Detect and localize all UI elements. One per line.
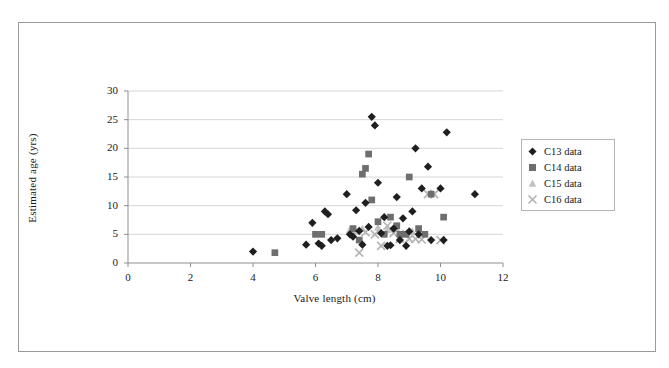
marker-diamond [399,214,407,222]
y-tick-label: 25 [92,113,118,125]
marker-diamond [374,179,382,187]
x-tick-label: 12 [490,271,516,283]
marker-diamond [343,190,351,198]
legend-label: C14 data [544,162,582,173]
marker-diamond [308,219,316,227]
marker-diamond [352,206,360,214]
y-axis-title: Estimated age (yrs) [26,108,38,248]
y-tick-label: 5 [92,227,118,239]
marker-diamond [408,207,416,215]
legend-marker-diamond-icon [527,146,538,157]
marker-diamond [424,163,432,171]
legend-item-c16-data[interactable]: C16 data [527,191,614,207]
marker-square [406,174,413,181]
marker-square [362,165,369,172]
legend-marker-triangle-icon [527,178,538,189]
marker-diamond [393,193,401,201]
marker-square [365,151,372,158]
marker-diamond [365,223,373,231]
marker-diamond [427,236,435,244]
scatter-chart: 051015202530 024681012 Valve length (cm)… [0,0,669,368]
marker-diamond [380,213,388,221]
x-tick-label: 6 [303,271,329,283]
marker-triangle [529,179,537,186]
marker-cross [529,195,537,203]
gridlines [128,91,503,234]
y-tick-label: 15 [92,170,118,182]
y-tick-label: 30 [92,84,118,96]
y-tick-label: 20 [92,141,118,153]
marker-square [440,214,447,221]
marker-cross [355,249,363,257]
x-tick-label: 10 [428,271,454,283]
marker-square [359,171,366,178]
marker-diamond [249,247,257,255]
marker-diamond [302,241,310,249]
marker-diamond [411,144,419,152]
marker-diamond [471,190,479,198]
legend-label: C16 data [544,194,582,205]
x-tick-label: 0 [115,271,141,283]
marker-square [428,191,435,198]
marker-diamond [529,147,537,155]
legend-marker-cross-icon [527,194,538,205]
legend-label: C13 data [544,146,582,157]
marker-square [529,163,536,170]
marker-diamond [333,234,341,242]
x-axis-title: Valve length (cm) [0,292,669,304]
legend-item-c14-data[interactable]: C14 data [527,159,614,175]
legend-item-c15-data[interactable]: C15 data [527,175,614,191]
marker-diamond [327,236,335,244]
marker-square [312,231,319,238]
marker-diamond [371,121,379,129]
x-tick-label: 8 [365,271,391,283]
legend-marker-square-icon [527,162,538,173]
y-tick-label: 0 [92,256,118,268]
x-tick-label: 2 [178,271,204,283]
marker-square [318,231,325,238]
data-points-layer [249,113,479,257]
marker-square [375,218,382,225]
marker-square [368,197,375,204]
chart-legend: C13 dataC14 dataC15 dataC16 data [521,139,615,211]
y-tick-label: 10 [92,199,118,211]
legend-label: C15 data [544,178,582,189]
marker-square [272,249,279,256]
marker-diamond [440,236,448,244]
legend-item-c13-data[interactable]: C13 data [527,143,614,159]
x-tick-label: 4 [240,271,266,283]
marker-diamond [443,128,451,136]
